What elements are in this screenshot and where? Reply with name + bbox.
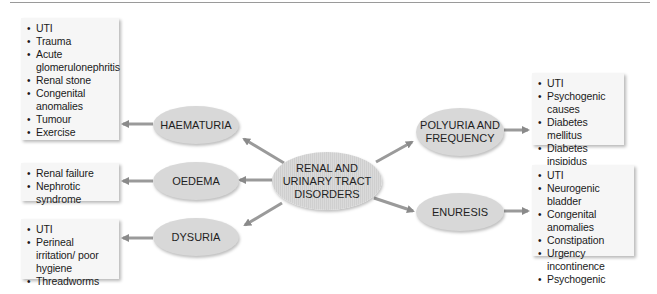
- polyuria-causes-box: UTI Psychogenic causes Diabetes mellitus…: [532, 73, 624, 145]
- oedema-label: OEDEMA: [172, 175, 220, 188]
- arrow-to-haematuria: [244, 139, 284, 163]
- enuresis-node: ENURESIS: [416, 193, 504, 231]
- oedema-node: OEDEMA: [153, 162, 239, 200]
- cause-item: Threadworms: [27, 275, 113, 288]
- cause-item: Perineal irritation/ poor hygiene: [27, 236, 113, 275]
- cause-item: Diabetes mellitus: [538, 116, 618, 142]
- cause-item: Nephrotic syndrome: [27, 180, 113, 206]
- central-label-line1: RENAL AND: [283, 162, 372, 175]
- cause-item: Congenital anomalies: [538, 208, 628, 234]
- cause-item: Renal stone: [27, 74, 113, 87]
- haematuria-label: HAEMATURIA: [160, 119, 231, 132]
- arrow-to-enuresis: [374, 198, 413, 211]
- cause-item: Renal failure: [27, 167, 113, 180]
- enuresis-causes-box: UTI Neurogenic bladder Congenital anomal…: [532, 165, 634, 256]
- cause-item: Urgency incontinence: [538, 247, 628, 273]
- dysuria-causes-box: UTI Perineal irritation/ poor hygiene Th…: [21, 219, 119, 279]
- arrow-to-dysuria: [245, 203, 282, 225]
- cause-item: Constipation: [538, 234, 628, 247]
- cause-item: Congenital anomalies: [27, 87, 113, 113]
- central-node: RENAL AND URINARY TRACT DISORDERS: [272, 152, 382, 210]
- cause-item: Exercise: [27, 126, 113, 139]
- cause-item: Acute glomerulonephritis: [27, 48, 113, 74]
- polyuria-label-line2: FREQUENCY: [420, 132, 500, 145]
- enuresis-label: ENURESIS: [432, 206, 488, 219]
- cause-item: Tumour: [27, 113, 113, 126]
- cause-item: UTI: [538, 77, 618, 90]
- cause-item: UTI: [538, 169, 628, 182]
- cause-item: UTI: [27, 223, 113, 236]
- cause-item: Psychogenic: [538, 273, 628, 286]
- dysuria-node: DYSURIA: [153, 218, 239, 256]
- arrow-to-polyuria: [376, 142, 412, 162]
- central-label-line2: URINARY TRACT: [283, 175, 372, 188]
- cause-item: Psychogenic causes: [538, 90, 618, 116]
- central-label-line3: DISORDERS: [283, 188, 372, 201]
- dysuria-label: DYSURIA: [172, 231, 221, 244]
- cause-item: Neurogenic bladder: [538, 182, 628, 208]
- cause-item: Trauma: [27, 35, 113, 48]
- polyuria-node: POLYURIA AND FREQUENCY: [416, 108, 504, 156]
- haematuria-node: HAEMATURIA: [153, 106, 239, 144]
- polyuria-label-line1: POLYURIA AND: [420, 119, 500, 132]
- cause-item: UTI: [27, 22, 113, 35]
- haematuria-causes-box: UTI Trauma Acute glomerulonephritis Rena…: [21, 18, 119, 140]
- oedema-causes-box: Renal failure Nephrotic syndrome: [21, 163, 119, 201]
